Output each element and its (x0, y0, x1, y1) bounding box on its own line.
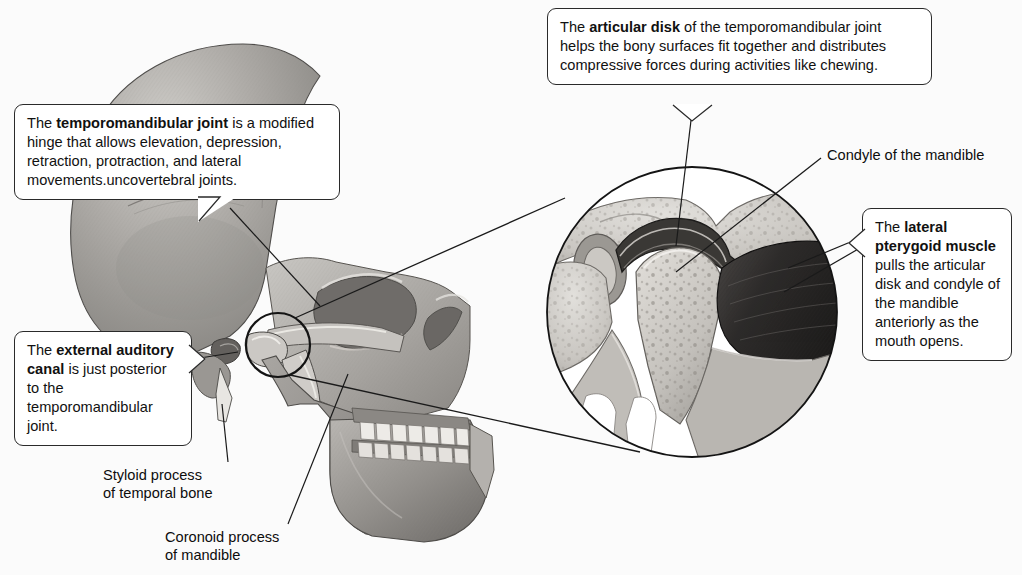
temporal-fossa-shading (116, 216, 264, 320)
label-condyle-of-mandible: Condyle of the mandible (827, 146, 984, 164)
label-coronoid-process: Coronoid process of mandible (165, 528, 279, 565)
callout-term-tmj: temporomandibular joint (56, 115, 228, 131)
callout-term-disk: articular disk (589, 19, 680, 35)
callout-text-tmj: The temporomandibular joint is a modifie… (27, 115, 314, 188)
articular-disk-callout: The articular disk of the temporomandibu… (547, 8, 932, 85)
external-auditory-canal-callout: The external auditory canal is just post… (14, 331, 192, 446)
lateral-pterygoid-callout: The lateral pterygoid muscle pulls the a… (862, 208, 1012, 361)
label-styloid-process: Styloid process of temporal bone (103, 466, 213, 503)
label-styloid-line2: of temporal bone (103, 484, 213, 502)
label-coronoid-line1: Coronoid process (165, 528, 279, 546)
anatomy-figure: The temporomandibular joint is a modifie… (0, 0, 1022, 575)
callout-text-pterygoid: The lateral pterygoid muscle pulls the a… (875, 219, 1000, 349)
callout-text-disk: The articular disk of the temporomandibu… (560, 19, 886, 73)
label-styloid-line1: Styloid process (103, 466, 213, 484)
temporomandibular-joint-callout: The temporomandibular joint is a modifie… (14, 104, 340, 200)
callout-text-eac: The external auditory canal is just post… (27, 342, 174, 434)
label-coronoid-line2: of mandible (165, 546, 279, 564)
